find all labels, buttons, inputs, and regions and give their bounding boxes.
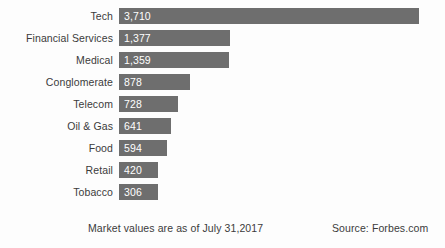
bar-fill[interactable] bbox=[119, 8, 419, 24]
chart-plot-area: Tech3,710Financial Services1,377Medical1… bbox=[0, 0, 445, 214]
bar-value-label: 878 bbox=[124, 74, 142, 90]
bar-category-label: Telecom bbox=[0, 96, 113, 112]
market-values-asof-note: Market values are as of July 31,2017 bbox=[88, 220, 263, 236]
bar-value-label: 1,377 bbox=[124, 30, 151, 46]
bar-row: Retail420 bbox=[0, 162, 445, 178]
bar-value-label: 641 bbox=[124, 118, 142, 134]
bar-value-label: 728 bbox=[124, 96, 142, 112]
bar-track: 641 bbox=[119, 118, 171, 134]
bar-row: Financial Services1,377 bbox=[0, 30, 445, 46]
bar-category-label: Medical bbox=[0, 52, 113, 68]
bar-track: 594 bbox=[119, 140, 167, 156]
bar-row: Tech3,710 bbox=[0, 8, 445, 24]
bar-value-label: 306 bbox=[124, 184, 142, 200]
bar-category-label: Tobacco bbox=[0, 184, 113, 200]
bar-category-label: Financial Services bbox=[0, 30, 113, 46]
bar-track: 728 bbox=[119, 96, 178, 112]
bar-track: 420 bbox=[119, 162, 158, 178]
bar-category-label: Retail bbox=[0, 162, 113, 178]
bar-value-label: 3,710 bbox=[124, 8, 151, 24]
bar-row: Conglomerate878 bbox=[0, 74, 445, 90]
bar-track: 878 bbox=[119, 74, 190, 90]
chart-source-note: Source: Forbes.com bbox=[332, 220, 428, 236]
bar-value-label: 420 bbox=[124, 162, 142, 178]
bar-value-label: 594 bbox=[124, 140, 142, 156]
bar-category-label: Conglomerate bbox=[0, 74, 113, 90]
bar-track: 3,710 bbox=[119, 8, 419, 24]
bar-row: Telecom728 bbox=[0, 96, 445, 112]
bar-row: Food594 bbox=[0, 140, 445, 156]
bar-row: Tobacco306 bbox=[0, 184, 445, 200]
bar-chart-figure: Tech3,710Financial Services1,377Medical1… bbox=[0, 0, 445, 248]
bar-category-label: Oil & Gas bbox=[0, 118, 113, 134]
bar-row: Oil & Gas641 bbox=[0, 118, 445, 134]
bar-track: 1,377 bbox=[119, 30, 230, 46]
bar-category-label: Food bbox=[0, 140, 113, 156]
bar-category-label: Tech bbox=[0, 8, 113, 24]
bar-track: 306 bbox=[119, 184, 158, 200]
chart-footnotes: Market values are as of July 31,2017 Sou… bbox=[0, 220, 445, 240]
bar-value-label: 1,359 bbox=[124, 52, 151, 68]
bar-track: 1,359 bbox=[119, 52, 229, 68]
bar-row: Medical1,359 bbox=[0, 52, 445, 68]
